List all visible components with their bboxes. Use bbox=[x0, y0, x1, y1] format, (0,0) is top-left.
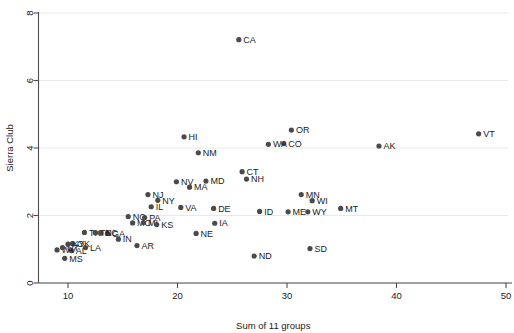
data-point: SD bbox=[307, 244, 327, 254]
data-point: HI bbox=[181, 132, 197, 142]
point-marker-wa bbox=[266, 142, 271, 147]
y-tick-label-4: 4 bbox=[24, 145, 35, 150]
data-point: MT bbox=[338, 204, 359, 214]
point-label-va: VA bbox=[185, 203, 196, 213]
point-marker-de bbox=[211, 206, 216, 211]
x-tick-label-10: 10 bbox=[63, 290, 74, 301]
point-marker-or bbox=[289, 128, 294, 133]
x-axis-title: Sum of 11 groups bbox=[236, 320, 311, 331]
point-marker-ca bbox=[236, 37, 241, 42]
point-marker-ia bbox=[212, 221, 217, 226]
point-label-wi: WI bbox=[317, 196, 328, 206]
y-tick-label-6: 6 bbox=[24, 78, 35, 83]
data-point: ND bbox=[252, 251, 273, 261]
point-marker-id bbox=[257, 209, 262, 214]
x-tick-label-30: 30 bbox=[282, 290, 293, 301]
data-point: VA bbox=[178, 203, 196, 213]
point-marker-vt bbox=[476, 131, 481, 136]
point-label-ms: MS bbox=[69, 254, 83, 264]
data-point: CA bbox=[236, 35, 256, 45]
data-point: NE bbox=[194, 229, 214, 239]
data-point: IA bbox=[212, 218, 228, 228]
point-label-ks: KS bbox=[161, 220, 173, 230]
point-label-la: LA bbox=[90, 243, 101, 253]
point-marker-nj bbox=[145, 192, 150, 197]
point-label-nv: NV bbox=[181, 177, 194, 187]
point-label-mt: MT bbox=[345, 204, 358, 214]
data-point: NM bbox=[196, 148, 217, 158]
point-label-hi: HI bbox=[189, 132, 198, 142]
point-marker-ak bbox=[376, 143, 381, 148]
y-tick-label-0: 0 bbox=[24, 280, 35, 285]
data-point: AR bbox=[134, 241, 154, 251]
point-label-in: IN bbox=[123, 234, 132, 244]
point-label-id: ID bbox=[264, 207, 274, 217]
point-marker-ne bbox=[194, 231, 199, 236]
point-label-wa: WA bbox=[273, 139, 287, 149]
data-point: OR bbox=[289, 125, 310, 135]
point-marker-mn bbox=[299, 192, 304, 197]
point-label-ar: AR bbox=[141, 241, 154, 251]
y-tick-label-8: 8 bbox=[24, 10, 35, 15]
point-label-sd: SD bbox=[314, 244, 327, 254]
point-label-ny: NY bbox=[162, 196, 175, 206]
point-marker-va bbox=[178, 205, 183, 210]
point-marker-wi bbox=[310, 198, 315, 203]
point-marker-tx bbox=[82, 230, 87, 235]
point-marker-nd bbox=[252, 253, 257, 258]
point-marker-ar bbox=[134, 243, 139, 248]
data-point: VT bbox=[476, 129, 495, 139]
point-marker-nv bbox=[174, 179, 179, 184]
x-tick-label-50: 50 bbox=[501, 290, 512, 301]
point-marker-in bbox=[116, 237, 121, 242]
point-label-vt: VT bbox=[483, 129, 495, 139]
point-label-ne: NE bbox=[201, 229, 214, 239]
point-label-nh: NH bbox=[251, 174, 264, 184]
point-marker-nm bbox=[196, 150, 201, 155]
point-marker-mo bbox=[130, 220, 135, 225]
scatter-chart: 024681020304050Sum of 11 groupsSierra Cl… bbox=[0, 0, 514, 333]
point-marker-il bbox=[149, 204, 154, 209]
point-label-or: OR bbox=[296, 125, 310, 135]
point-label-md: MD bbox=[210, 176, 224, 186]
point-marker-tn bbox=[93, 230, 98, 235]
point-marker-wy bbox=[305, 209, 310, 214]
point-label-il: IL bbox=[156, 202, 164, 212]
point-label-ut: UT bbox=[67, 243, 79, 253]
point-label-ca: CA bbox=[243, 35, 256, 45]
point-label-co: CO bbox=[288, 139, 302, 149]
x-tick-label-20: 20 bbox=[172, 290, 183, 301]
data-point: NJ bbox=[145, 190, 163, 200]
point-marker-hi bbox=[181, 134, 186, 139]
point-label-ak: AK bbox=[383, 141, 395, 151]
point-label-nd: ND bbox=[259, 251, 272, 261]
point-marker-ma bbox=[187, 185, 192, 190]
y-tick-label-2: 2 bbox=[24, 213, 35, 218]
point-marker-me bbox=[285, 209, 290, 214]
point-label-tn: TN bbox=[100, 228, 112, 238]
point-marker-ks bbox=[154, 222, 159, 227]
data-point: AK bbox=[376, 141, 395, 151]
point-label-ia: IA bbox=[219, 218, 228, 228]
point-label-nm: NM bbox=[203, 148, 217, 158]
point-label-me: ME bbox=[293, 207, 307, 217]
y-axis-title: Sierra Club bbox=[4, 124, 15, 172]
point-marker-sd bbox=[307, 246, 312, 251]
x-tick-label-40: 40 bbox=[391, 290, 402, 301]
point-marker-nc bbox=[126, 214, 131, 219]
data-point: IL bbox=[149, 202, 164, 212]
point-marker-nh bbox=[244, 176, 249, 181]
point-marker-ct bbox=[240, 169, 245, 174]
point-marker-mt bbox=[338, 206, 343, 211]
plot-area: 024681020304050Sum of 11 groupsSierra Cl… bbox=[0, 0, 514, 333]
data-point: DE bbox=[211, 204, 231, 214]
point-label-wy: WY bbox=[312, 207, 327, 217]
point-marker-ms bbox=[62, 256, 67, 261]
point-marker-ut bbox=[60, 245, 65, 250]
point-label-ma: MA bbox=[194, 182, 208, 192]
point-marker-wv bbox=[54, 247, 59, 252]
point-marker-mi bbox=[141, 220, 146, 225]
point-label-de: DE bbox=[218, 204, 231, 214]
